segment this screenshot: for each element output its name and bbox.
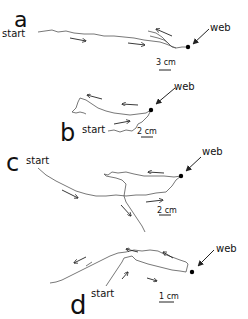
start-label-d: start xyxy=(91,288,114,299)
web-pointer-arrow-icon xyxy=(156,88,175,104)
trajectory-path xyxy=(72,112,86,114)
scale-label-b: 2 cm xyxy=(137,127,157,136)
direction-arrow-icon xyxy=(148,172,164,173)
trajectory-path xyxy=(50,250,188,286)
direction-arrow-icon xyxy=(87,95,102,99)
start-label-b: start xyxy=(82,124,105,135)
web-location-dot xyxy=(179,174,183,178)
web-label-c: web xyxy=(202,146,223,157)
web-pointer-arrow-icon xyxy=(186,157,201,171)
direction-arrow-icon xyxy=(114,121,130,124)
panel-letter-b: b xyxy=(60,119,75,147)
direction-arrow-icon xyxy=(128,43,145,45)
direction-arrow-icon xyxy=(146,200,163,202)
scale-label-d: 1 cm xyxy=(159,292,179,301)
web-pointer-arrow-icon xyxy=(198,250,214,266)
trajectory-path xyxy=(104,172,181,232)
panel-c: c start web 2 cm xyxy=(6,146,223,232)
web-location-dot xyxy=(190,270,194,274)
panel-letter-d: d xyxy=(70,290,87,319)
direction-arrow-icon xyxy=(147,278,157,281)
figure-canvas: a start web 3 cm b start web 2 cm c star… xyxy=(0,0,248,319)
trajectory-path xyxy=(72,98,151,115)
scale-label-a: 3 cm xyxy=(156,58,176,67)
start-label-a: start xyxy=(2,28,25,39)
direction-arrow-icon xyxy=(163,252,173,258)
direction-arrow-icon xyxy=(70,38,86,41)
web-location-dot xyxy=(149,108,153,112)
scale-label-c: 2 cm xyxy=(157,206,177,215)
trajectory-path xyxy=(38,168,181,196)
panel-b: b start web 2 cm xyxy=(60,81,195,147)
web-label-a: web xyxy=(210,22,231,33)
panel-letter-c: c xyxy=(6,149,19,177)
web-location-dot xyxy=(186,45,190,49)
direction-arrow-icon xyxy=(74,257,86,263)
panel-a: a start web 3 cm xyxy=(2,7,231,70)
panel-d: d start web 1 cm xyxy=(50,243,237,319)
web-label-d: web xyxy=(216,243,237,254)
web-label-b: web xyxy=(174,81,195,92)
web-pointer-arrow-icon xyxy=(193,29,209,44)
direction-arrow-icon xyxy=(122,104,138,105)
figure-trajectories: a start web 3 cm b start web 2 cm c star… xyxy=(0,0,248,319)
start-label-c: start xyxy=(26,155,49,166)
direction-arrow-icon xyxy=(122,272,128,279)
